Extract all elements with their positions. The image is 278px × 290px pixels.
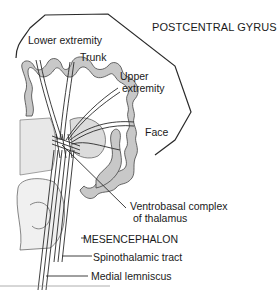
label-ventrobasal-2: of thalamus	[133, 212, 187, 224]
label-mesencephalon: MESENCEPHALON	[83, 233, 178, 245]
label-ventrobasal-1: Ventrobasal complex	[130, 200, 227, 212]
label-upper-extremity-2: extremity	[122, 82, 165, 94]
label-lower-extremity: Lower extremity	[28, 34, 102, 46]
label-medial-lemniscus: Medial lemniscus	[91, 270, 172, 282]
label-upper-extremity-1: Upper	[120, 70, 149, 82]
diagram-canvas: POSTCENTRAL GYRUS Lower extremity Trunk …	[0, 0, 278, 290]
basal-region	[20, 118, 56, 175]
label-postcentral-gyrus: POSTCENTRAL GYRUS	[152, 21, 277, 33]
label-spinothalamic-tract: Spinothalamic tract	[93, 251, 182, 263]
label-face: Face	[145, 126, 168, 138]
label-trunk: Trunk	[80, 51, 106, 63]
